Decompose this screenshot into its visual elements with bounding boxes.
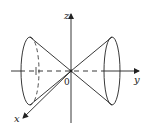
y-axis-label: y (133, 74, 140, 85)
origin-point (70, 70, 73, 73)
x-axis-label: x (14, 113, 20, 124)
z-axis-label: z (63, 10, 70, 21)
origin-label: 0 (64, 77, 70, 87)
double-cone-diagram: z y x 0 (0, 0, 149, 128)
left-cone (21, 37, 71, 105)
